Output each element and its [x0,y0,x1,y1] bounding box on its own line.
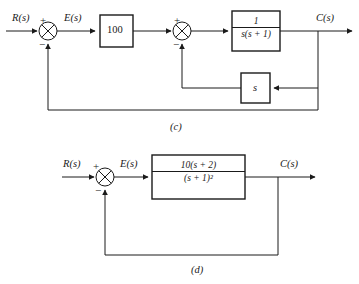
error-label-c: E(s) [64,12,82,23]
caption-c: (c) [170,121,182,132]
input-label-d: R(s) [63,158,81,169]
figure-canvas: R(s) + − E(s) 100 + − 1 s(s + 1) s C(s) … [0,0,359,284]
input-label-c: R(s) [12,12,30,23]
plant-c-fraction-bar [232,27,280,28]
plant-block-c-fraction: 1 s(s + 1) [232,16,280,40]
plant-c-denominator: s(s + 1) [232,29,280,39]
output-label-d: C(s) [280,158,298,169]
gain-block-100-label: 100 [107,24,123,35]
sum1-plus-sign: + [40,14,46,26]
sum-d-plus-sign: + [93,160,99,172]
caption-d: (d) [191,264,203,275]
plant-d-numerator: 10(s + 2) [152,160,245,170]
block-diagram-svg [0,0,359,284]
plant-c-numerator: 1 [232,16,280,26]
plant-block-d-fraction: 10(s + 2) (s + 1)² [152,160,245,184]
plant-d-fraction-bar [152,171,245,172]
output-label-c: C(s) [316,12,334,23]
sum-d-minus-sign: − [95,184,101,196]
error-label-d: E(s) [120,158,138,169]
sum1-minus-sign: − [39,38,45,50]
sum2-plus-sign: + [174,14,180,26]
plant-d-denominator: (s + 1)² [152,173,245,183]
inner-feedback-block-label: s [253,82,257,93]
sum2-minus-sign: − [173,38,179,50]
